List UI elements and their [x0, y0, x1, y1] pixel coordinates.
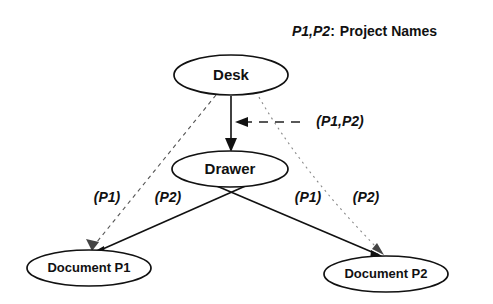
legend-description: Project Names [340, 23, 437, 39]
node-desk-label: Desk [213, 66, 250, 83]
node-document-p1-label: Document P1 [47, 260, 130, 275]
annotation-leader-line [235, 117, 300, 127]
node-document-p2-label: Document P2 [344, 266, 427, 281]
legend: P1,P2:Project Names [292, 23, 437, 39]
edge-label-desk-document-p2: (P2) [353, 189, 380, 205]
edge-label-drawer-document-p1: (P2) [155, 189, 182, 205]
node-desk[interactable]: Desk [174, 55, 288, 95]
node-document-p1[interactable]: Document P1 [27, 250, 151, 286]
edge-label-drawer-document-p2: (P1) [295, 189, 322, 205]
node-drawer-label: Drawer [205, 160, 256, 177]
diagram-figure: Desk Drawer Document P1 Document P2 (P1)… [0, 0, 493, 304]
edge-label-desk-document-p1: (P1) [94, 189, 121, 205]
edge-desk-to-drawer-arrowhead [225, 138, 237, 152]
node-document-p2[interactable]: Document P2 [324, 256, 448, 292]
annotation-leader-arrowhead [235, 117, 248, 127]
legend-text: P1,P2:Project Names [292, 23, 437, 39]
legend-separator: : [330, 23, 335, 39]
edge-desk-to-drawer [225, 96, 237, 152]
node-drawer[interactable]: Drawer [172, 151, 288, 187]
edge-label-desk-drawer: (P1,P2) [316, 113, 364, 129]
diagram-canvas: Desk Drawer Document P1 Document P2 (P1)… [0, 0, 493, 304]
legend-symbols: P1,P2 [292, 23, 330, 39]
